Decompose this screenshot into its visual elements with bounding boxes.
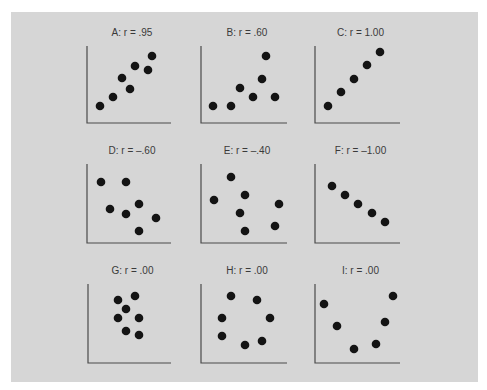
- data-point: [209, 102, 218, 111]
- data-point: [227, 292, 236, 301]
- data-point: [118, 74, 127, 83]
- panel-title: A: r = .95: [112, 27, 153, 38]
- data-point: [144, 66, 153, 75]
- data-point: [328, 182, 337, 191]
- panel-title: H: r = .00: [226, 265, 268, 276]
- panel-axes: [201, 284, 287, 363]
- scatter-panel-e: E: r = –.40: [201, 145, 287, 243]
- panel-axes: [87, 164, 171, 243]
- data-point: [376, 48, 385, 57]
- data-point: [241, 227, 250, 236]
- data-point: [126, 85, 135, 94]
- panel-title: C: r = 1.00: [337, 27, 384, 38]
- data-point: [236, 84, 245, 93]
- data-point: [122, 305, 131, 314]
- data-point: [275, 200, 284, 209]
- data-point: [114, 296, 123, 305]
- data-point: [122, 327, 131, 336]
- data-point: [249, 93, 258, 102]
- data-point: [350, 75, 359, 84]
- data-point: [135, 331, 144, 340]
- panel-axes: [315, 46, 400, 123]
- panel-title: I: r = .00: [342, 265, 379, 276]
- data-point: [337, 88, 346, 97]
- data-point: [227, 173, 236, 182]
- panel-axes: [88, 284, 171, 363]
- panel-title: D: r = –.60: [109, 145, 156, 156]
- data-point: [114, 314, 123, 323]
- data-point: [135, 227, 144, 236]
- data-point: [152, 214, 161, 223]
- data-point: [372, 340, 381, 349]
- data-point: [350, 345, 359, 354]
- data-point: [320, 300, 329, 309]
- scatter-panel-b: B: r = .60: [201, 27, 287, 123]
- data-point: [271, 93, 280, 102]
- data-point: [97, 178, 106, 187]
- scatter-panel-i: I: r = .00: [315, 265, 400, 363]
- data-point: [368, 209, 377, 218]
- data-point: [122, 178, 131, 187]
- scatterplot-grid: A: r = .95B: r = .60C: r = 1.00D: r = –.…: [0, 0, 487, 390]
- data-point: [96, 102, 105, 111]
- scatter-panel-c: C: r = 1.00: [315, 27, 400, 123]
- data-point: [131, 292, 140, 301]
- panel-axes: [201, 46, 287, 123]
- data-point: [271, 222, 280, 231]
- data-point: [135, 200, 144, 209]
- panel-title: G: r = .00: [112, 265, 154, 276]
- panel-title: B: r = .60: [227, 27, 268, 38]
- data-point: [241, 341, 250, 350]
- data-point: [135, 314, 144, 323]
- data-point: [236, 209, 245, 218]
- data-point: [227, 102, 236, 111]
- scatter-panel-d: D: r = –.60: [87, 145, 171, 243]
- scatter-panel-a: A: r = .95: [87, 27, 171, 123]
- panel-title: F: r = –1.00: [335, 145, 387, 156]
- data-point: [210, 196, 219, 205]
- data-point: [218, 332, 227, 341]
- data-point: [109, 93, 118, 102]
- data-point: [324, 102, 333, 111]
- data-point: [354, 200, 363, 209]
- data-point: [381, 218, 390, 227]
- data-point: [266, 314, 275, 323]
- scatter-panel-f: F: r = –1.00: [315, 145, 400, 243]
- panel-title: E: r = –.40: [224, 145, 271, 156]
- panel-axes: [87, 46, 171, 123]
- data-point: [381, 318, 390, 327]
- data-point: [218, 314, 227, 323]
- data-point: [333, 322, 342, 331]
- data-point: [131, 62, 140, 71]
- data-point: [253, 296, 262, 305]
- data-point: [258, 337, 267, 346]
- data-point: [241, 191, 250, 200]
- data-point: [106, 205, 115, 214]
- data-point: [258, 75, 267, 84]
- data-point: [122, 210, 131, 219]
- data-point: [389, 292, 398, 301]
- data-point: [341, 191, 350, 200]
- scatter-panel-g: G: r = .00: [88, 265, 171, 363]
- data-point: [262, 52, 271, 61]
- scatter-panel-h: H: r = .00: [201, 265, 287, 363]
- data-point: [148, 52, 157, 61]
- data-point: [363, 61, 372, 70]
